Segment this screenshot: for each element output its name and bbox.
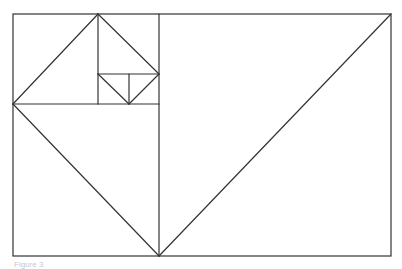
diagonal-small-right: [129, 74, 159, 104]
outer-rectangle: [13, 14, 391, 256]
diagonal-upper-left: [13, 14, 98, 104]
diagonal-large-right: [159, 14, 391, 256]
figure-caption: Figure 3: [14, 261, 43, 269]
diagonal-small-left: [98, 74, 129, 104]
diagonal-square-lower: [13, 104, 159, 256]
diagram-lines: [13, 14, 391, 256]
diagonal-upper-right: [98, 14, 159, 74]
